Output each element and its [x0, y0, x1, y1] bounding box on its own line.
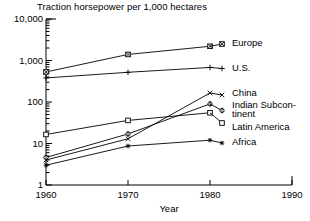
- y-tick-label-1000: 1,000: [0, 55, 43, 66]
- series-label-indian-subcontinent: Indian Subcon-tinent: [232, 100, 296, 119]
- x-tick-label-1990: 1990: [270, 189, 310, 200]
- x-tick-label-1960: 1960: [24, 189, 68, 200]
- data-series-group: [43, 44, 213, 168]
- series-africa: [44, 138, 213, 168]
- label-leader-lines: [210, 42, 225, 146]
- x-axis-title: Year: [149, 203, 189, 214]
- series-label-indian-subcontinent-line2: tinent: [232, 109, 296, 119]
- series-label-africa: Africa: [232, 137, 256, 147]
- y-tick-label-10000: 10,000: [0, 13, 43, 24]
- series-label-latin-america: Latin America: [232, 122, 290, 132]
- x-tick-label-1970: 1970: [106, 189, 150, 200]
- y-tick-label-10: 10: [0, 138, 43, 149]
- series-label-europe: Europe: [232, 38, 263, 48]
- series-label-china: China: [232, 88, 257, 98]
- y-tick-label-100: 100: [0, 96, 43, 107]
- series-china: [44, 91, 213, 163]
- x-tick-label-1980: 1980: [188, 189, 232, 200]
- chart-figure: Traction horsepower per 1,000 hectares 1…: [0, 0, 310, 221]
- series-label-us: U.S.: [232, 63, 250, 73]
